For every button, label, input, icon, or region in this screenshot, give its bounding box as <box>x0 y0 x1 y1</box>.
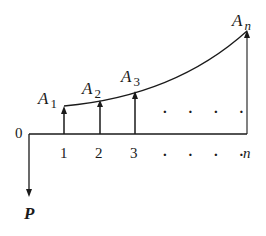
payment-label-2: A2 <box>82 80 101 97</box>
payment-label-3: A3 <box>121 68 140 85</box>
payment-ellipsis: . . . . <box>163 100 252 117</box>
payment-label-n: An <box>232 12 251 29</box>
period-ellipsis: . . . . <box>163 143 252 160</box>
cash-flow-diagram <box>0 0 266 236</box>
period-label-3: 3 <box>130 146 138 161</box>
arrow-down-icon <box>26 189 32 197</box>
present-value-label: P <box>24 205 34 222</box>
period-label-1: 1 <box>60 146 68 161</box>
payment-label-1: A1 <box>38 90 57 107</box>
period-label-2: 2 <box>95 146 103 161</box>
origin-label: 0 <box>15 126 23 141</box>
arrow-up-icon <box>61 106 67 114</box>
